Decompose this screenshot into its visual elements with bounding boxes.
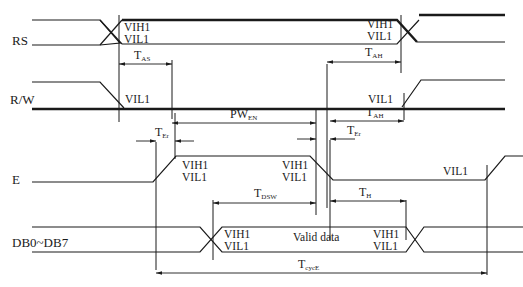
svg-text:TAH: TAH bbox=[366, 105, 383, 120]
db-vih-2: VIH1 bbox=[373, 228, 399, 240]
level-labels: VIH1 VIL1 VIH1 VIL1 VIL1 VIL1 VIH1 VIL1 … bbox=[124, 18, 468, 252]
rs-waveform bbox=[32, 15, 505, 45]
db-vil-2: VIL1 bbox=[373, 240, 398, 252]
db-waveform bbox=[32, 227, 523, 252]
signal-label-rs: RS bbox=[12, 33, 28, 48]
rw-vil-2: VIL1 bbox=[368, 93, 393, 105]
svg-text:TcycE: TcycE bbox=[298, 257, 319, 272]
rs-vil-1: VIL1 bbox=[124, 33, 149, 45]
rw-vil-1: VIL1 bbox=[125, 93, 150, 105]
rs-vih-2: VIH1 bbox=[367, 18, 393, 30]
e-vil-2: VIL1 bbox=[282, 171, 307, 183]
signal-label-e: E bbox=[12, 172, 20, 187]
timing-tah-rw: TAH bbox=[330, 105, 404, 121]
svg-text:TDSW: TDSW bbox=[254, 186, 277, 201]
valid-data-label: Valid data bbox=[293, 231, 339, 243]
timing-diagram: RS R/W E DB0~DB7 bbox=[0, 0, 523, 287]
e-vil-3: VIL1 bbox=[443, 165, 468, 177]
timing-ter-rise: TEr bbox=[136, 125, 194, 141]
svg-text:TAS: TAS bbox=[134, 48, 150, 63]
timing-tas: TAS bbox=[119, 48, 172, 64]
svg-text:TH: TH bbox=[359, 185, 371, 200]
e-vil-1: VIL1 bbox=[182, 171, 207, 183]
timing-tcyce: TcycE bbox=[156, 257, 487, 273]
signal-label-rw: R/W bbox=[10, 92, 35, 107]
rw-waveform bbox=[32, 80, 505, 109]
db-vih-1: VIH1 bbox=[224, 228, 250, 240]
svg-text:TAH: TAH bbox=[365, 45, 382, 60]
e-vih-2: VIH1 bbox=[282, 159, 308, 171]
timing-ter-fall: TEr bbox=[297, 123, 362, 139]
svg-text:TEr: TEr bbox=[347, 123, 362, 138]
signal-label-db: DB0~DB7 bbox=[12, 235, 69, 250]
timing-th: TH bbox=[330, 185, 406, 201]
e-vih-1: VIH1 bbox=[182, 159, 208, 171]
rs-vih-1: VIH1 bbox=[124, 21, 150, 33]
svg-text:TEr: TEr bbox=[155, 125, 170, 140]
timing-tah-rs: TAH bbox=[327, 45, 401, 62]
timing-tdsw: TDSW bbox=[213, 186, 316, 203]
rs-vil-2: VIL1 bbox=[367, 30, 392, 42]
db-vil-1: VIL1 bbox=[224, 240, 249, 252]
